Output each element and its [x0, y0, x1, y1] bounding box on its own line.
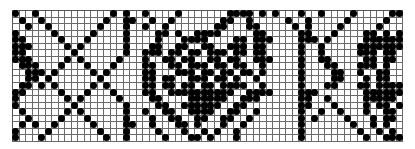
stitch-dot	[397, 135, 404, 142]
knitting-chart-grid	[12, 10, 403, 142]
